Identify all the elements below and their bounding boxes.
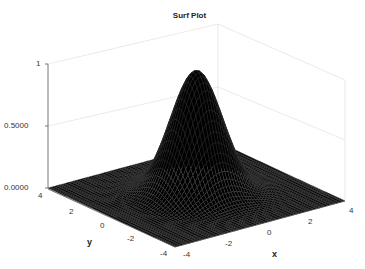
z-tick-0.5: 0.5000	[4, 121, 28, 130]
x-axis-label: x	[272, 249, 277, 259]
x-tick-0: 0	[267, 228, 271, 237]
surf-plot-figure: Surf Plot 1 0.5000 0.0000 4 2 0 -2 -	[0, 0, 365, 269]
y-tick-neg4: -4	[160, 249, 167, 258]
x-tick-4: 4	[349, 206, 353, 215]
plot-area	[0, 0, 365, 269]
z-tick-0: 0.0000	[4, 183, 28, 192]
x-tick-neg4: -4	[183, 250, 190, 259]
y-tick-neg2: -2	[127, 234, 134, 243]
x-tick-2: 2	[308, 217, 312, 226]
surface-mesh	[48, 71, 345, 248]
y-tick-4: 4	[38, 191, 42, 200]
x-tick-neg2: -2	[225, 239, 232, 248]
y-tick-0: 0	[100, 221, 104, 230]
y-tick-2: 2	[69, 207, 73, 216]
z-tick-1: 1	[36, 59, 40, 68]
y-axis-label: y	[87, 237, 92, 247]
